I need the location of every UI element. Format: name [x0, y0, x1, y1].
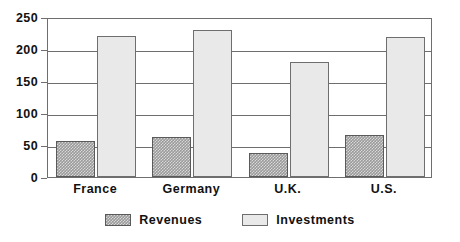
y-axis-tick-label: 200	[0, 44, 38, 57]
bar-revenues-france	[56, 141, 95, 177]
chart-legend: Revenues Investments	[0, 214, 460, 227]
legend-item-revenues: Revenues	[105, 214, 202, 227]
x-axis-label-uk: U.K.	[240, 183, 336, 196]
y-axis-tick-label: 50	[0, 140, 38, 153]
legend-swatch-revenues-icon	[105, 214, 131, 226]
bar-revenues-germany	[152, 137, 191, 177]
bar-investments-france	[97, 36, 136, 177]
bar-chart: 050100150200250 FranceGermanyU.K.U.S. Re…	[0, 0, 460, 242]
legend-item-investments: Investments	[242, 214, 354, 227]
y-axis-tick-label: 250	[0, 12, 38, 25]
bar-investments-us	[386, 37, 425, 177]
bar-investments-germany	[193, 30, 232, 177]
y-axis-tick-label: 150	[0, 76, 38, 89]
x-axis-label-france: France	[47, 183, 143, 196]
y-axis-tick-label: 0	[0, 172, 38, 185]
bar-investments-uk	[290, 62, 329, 177]
bar-revenues-us	[345, 135, 384, 177]
legend-swatch-investments-icon	[242, 214, 268, 226]
bar-revenues-uk	[249, 153, 288, 177]
x-axis-label-germany: Germany	[143, 183, 239, 196]
y-axis-tick-label: 100	[0, 108, 38, 121]
plot-area	[47, 18, 432, 178]
legend-label-revenues: Revenues	[139, 214, 202, 227]
y-axis-tick-mark	[41, 178, 47, 179]
x-axis-label-us: U.S.	[336, 183, 432, 196]
legend-label-investments: Investments	[276, 214, 354, 227]
